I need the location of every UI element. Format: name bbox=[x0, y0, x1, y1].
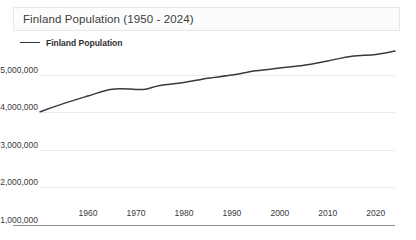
x-axis-tick-label: 2020 bbox=[366, 208, 385, 218]
line-path bbox=[40, 51, 395, 112]
y-axis-tick-label: 1,000,000 bbox=[0, 215, 38, 225]
y-axis-tick-label: 3,000,000 bbox=[0, 140, 38, 150]
x-axis-labels: 1960197019801990200020102020 bbox=[40, 208, 395, 222]
y-axis-tick-label: 5,000,000 bbox=[0, 65, 38, 75]
chart-title-box: Finland Population (1950 - 2024) bbox=[13, 7, 400, 31]
line-swatch-icon bbox=[20, 42, 40, 43]
chart-legend: Finland Population bbox=[20, 36, 123, 49]
y-axis-tick-label: 4,000,000 bbox=[0, 102, 38, 112]
x-axis-line bbox=[13, 225, 395, 226]
legend-item-label: Finland Population bbox=[46, 38, 123, 48]
x-axis-tick-label: 1990 bbox=[222, 208, 241, 218]
page-title: Finland Population (1950 - 2024) bbox=[14, 13, 194, 25]
series-finland-population bbox=[40, 52, 395, 225]
plot-area bbox=[40, 52, 395, 225]
y-axis-tick-label: 2,000,000 bbox=[0, 177, 38, 187]
x-axis-tick-label: 2000 bbox=[270, 208, 289, 218]
y-axis-labels: 1,000,0002,000,0003,000,0004,000,0005,00… bbox=[0, 52, 38, 225]
x-axis-tick-label: 1980 bbox=[174, 208, 193, 218]
chart-container: Finland Population (1950 - 2024) Finland… bbox=[0, 0, 416, 240]
x-axis-tick-label: 2010 bbox=[318, 208, 337, 218]
x-axis-tick-label: 1970 bbox=[126, 208, 145, 218]
x-axis-tick-label: 1960 bbox=[79, 208, 98, 218]
